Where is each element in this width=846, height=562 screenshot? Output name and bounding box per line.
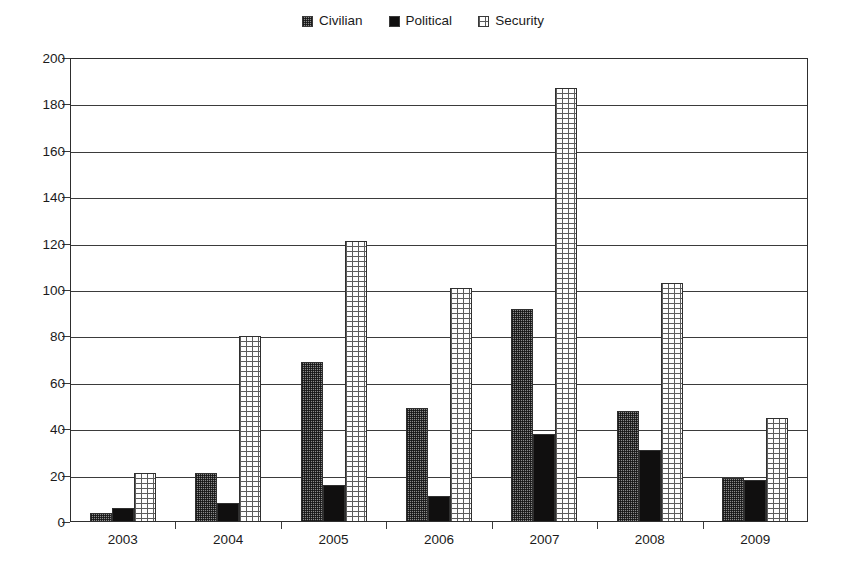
x-axis-tick-mark: [703, 522, 704, 529]
y-axis-tick-label: 40: [50, 422, 65, 437]
x-axis-tick-label: 2007: [509, 532, 579, 547]
bar-political-2007: [533, 434, 555, 522]
y-axis-tick-label: 60: [50, 375, 65, 390]
bar-group-2008: [617, 58, 683, 522]
bar-group-2009: [722, 58, 788, 522]
x-axis-tick-label: 2003: [88, 532, 158, 547]
bar-security-2004: [239, 336, 261, 522]
y-axis-tick-label: 140: [42, 190, 65, 205]
bar-group-2006: [406, 58, 472, 522]
bar-security-2007: [555, 88, 577, 522]
bar-group-2004: [195, 58, 261, 522]
bar-political-2004: [217, 503, 239, 522]
x-axis-tick-mark: [386, 522, 387, 529]
y-axis-tick-label: 80: [50, 329, 65, 344]
x-axis-tick-label: 2008: [615, 532, 685, 547]
bar-group-2005: [301, 58, 367, 522]
y-axis-tick-label: 100: [42, 283, 65, 298]
bar-civilian-2007: [511, 309, 533, 522]
bar-political-2009: [744, 480, 766, 522]
x-axis-tick-mark: [281, 522, 282, 529]
bar-chart: 020406080100120140160180200 200320042005…: [0, 0, 846, 562]
bar-group-2003: [90, 58, 156, 522]
bar-civilian-2006: [406, 408, 428, 522]
y-axis-tick-label: 160: [42, 143, 65, 158]
bar-security-2005: [345, 241, 367, 522]
bar-civilian-2005: [301, 362, 323, 522]
y-axis-tick-label: 0: [57, 515, 65, 530]
bar-political-2003: [112, 508, 134, 522]
bar-security-2006: [450, 288, 472, 522]
bar-civilian-2004: [195, 473, 217, 522]
bar-civilian-2003: [90, 513, 112, 522]
y-axis-tick-label: 120: [42, 236, 65, 251]
x-axis-tick-label: 2005: [299, 532, 369, 547]
y-axis-tick-label: 200: [42, 51, 65, 66]
bar-political-2005: [323, 485, 345, 522]
bar-civilian-2009: [722, 478, 744, 522]
x-axis-tick-mark: [597, 522, 598, 529]
bar-civilian-2008: [617, 411, 639, 522]
x-axis-tick-label: 2004: [193, 532, 263, 547]
bar-political-2008: [639, 450, 661, 522]
bar-security-2003: [134, 473, 156, 522]
bar-security-2008: [661, 283, 683, 522]
bar-group-2007: [511, 58, 577, 522]
x-axis-tick-label: 2006: [404, 532, 474, 547]
y-axis-tick-label: 180: [42, 97, 65, 112]
bars-layer: [70, 58, 808, 522]
x-axis-tick-label: 2009: [720, 532, 790, 547]
bar-security-2009: [766, 418, 788, 522]
y-axis-tick-label: 20: [50, 468, 65, 483]
bar-political-2006: [428, 496, 450, 522]
x-axis-tick-mark: [175, 522, 176, 529]
x-axis-tick-mark: [492, 522, 493, 529]
